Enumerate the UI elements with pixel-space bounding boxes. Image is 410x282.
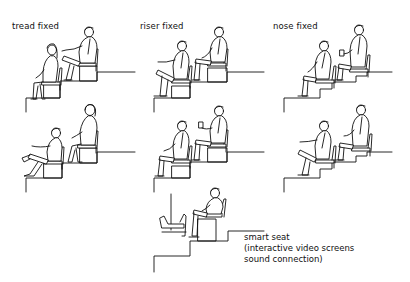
figure-man-rear-cup bbox=[191, 106, 227, 160]
figure-man-rear bbox=[62, 27, 97, 80]
panel-nose-fixed-bottom bbox=[270, 100, 410, 200]
cup-icon bbox=[199, 122, 203, 128]
panel-tread-fixed-bottom bbox=[0, 100, 140, 200]
figure-man-rear bbox=[192, 27, 227, 80]
figure-man-front-crossed bbox=[298, 121, 331, 175]
figure-man-front bbox=[154, 41, 189, 96]
stair-profile bbox=[154, 231, 264, 272]
figure-man-front bbox=[298, 41, 331, 96]
figure-man-front bbox=[22, 128, 62, 176]
panel-smart-seat bbox=[140, 180, 280, 282]
cup-icon bbox=[340, 50, 344, 56]
figure-man-rear bbox=[334, 105, 369, 160]
figure-woman-rear bbox=[68, 105, 97, 163]
panel-nose-fixed-top bbox=[270, 0, 410, 100]
panel-riser-fixed-top bbox=[140, 0, 280, 100]
figure-woman-front bbox=[31, 44, 58, 99]
figure-man-smart-seat bbox=[189, 188, 223, 237]
panel-tread-fixed-top bbox=[0, 0, 140, 100]
